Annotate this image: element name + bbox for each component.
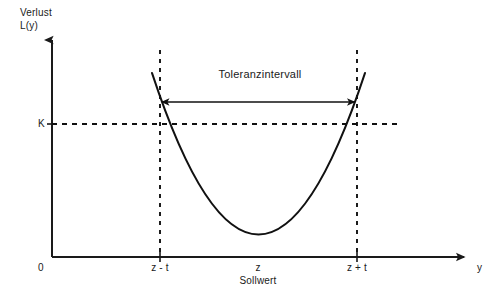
origin-label: 0 [38,262,44,274]
x-tick-label-lower-tolerance: z - t [151,262,169,274]
loss-curve [152,73,365,235]
tolerance-interval-label: Toleranzintervall [219,68,302,80]
target-value-label: Sollwert [239,275,276,287]
y-axis-label-line1: Verlust [20,6,52,19]
y-axis-label: Verlust L(y) [20,6,52,32]
k-threshold-label: K [38,118,45,130]
x-tick-label-upper-tolerance: z + t [347,262,367,274]
x-axis-label: y [477,262,482,274]
y-axis-label-line2: L(y) [20,19,52,32]
x-tick-label-target: z [255,262,260,274]
diagram-canvas [0,0,502,305]
loss-function-diagram: Verlust L(y) y 0 K z - t z z + t Sollwer… [0,0,502,305]
